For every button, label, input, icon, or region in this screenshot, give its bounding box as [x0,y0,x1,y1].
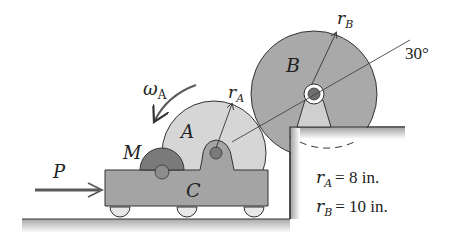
motor-label: M [122,142,142,163]
radius-a-label: rA [228,82,244,105]
gear-a-label: A [179,121,194,142]
given-r-a: rA= 8 in. [316,167,379,190]
radius-b-label: rB [337,8,353,31]
ground [22,219,290,233]
gear-cart-diagram: ωA A B M C P rA rB 30° rA= 8 in. rB= 10 … [0,0,451,238]
cart-label: C [186,179,201,201]
omega-a-label: ωA [143,78,167,102]
angle-label: 30° [405,44,429,63]
given-r-b: rB= 10 in. [316,196,388,219]
force-p-arrow [35,183,102,197]
force-p-label: P [52,161,66,182]
gear-b-label: B [285,54,300,76]
cart-wheels [110,207,264,217]
